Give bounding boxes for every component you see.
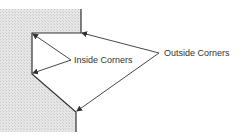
arrow-outside-top [82, 33, 159, 53]
arrow-inside-bottom [33, 60, 71, 73]
inside-corners-label: Inside Corners [74, 56, 133, 65]
outside-corners-label: Outside Corners [164, 49, 230, 58]
corners-diagram [0, 0, 243, 140]
inside-corner-arrows [33, 34, 71, 73]
outside-corner-arrows [77, 33, 159, 111]
arrow-inside-top [33, 34, 71, 60]
